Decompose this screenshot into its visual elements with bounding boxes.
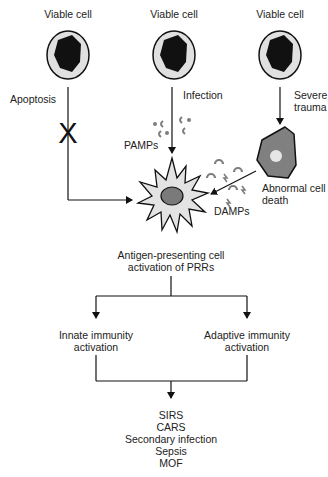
blocked-x-mark: X — [58, 117, 77, 149]
apc-label-2: activation of PRRs — [128, 261, 214, 273]
severe-trauma-label-2: trauma — [294, 101, 327, 113]
damps-molecules-icon — [207, 160, 245, 207]
diagram-canvas: X — [0, 0, 328, 477]
outcome-item: MOF — [159, 457, 182, 469]
adaptive-label-2: activation — [225, 341, 269, 353]
pamps-label: PAMPs — [124, 139, 158, 151]
viable-cell-1-label: Viable cell — [44, 8, 92, 20]
abnormal-cell-icon — [257, 127, 296, 178]
damps-arrow — [211, 171, 256, 194]
viable-cell-3-icon — [259, 31, 301, 79]
viable-cell-3-label: Viable cell — [256, 8, 304, 20]
abnormal-cell-label-1: Abnormal cell — [262, 182, 326, 194]
outcome-item: SIRS — [159, 409, 184, 421]
branch-connector — [96, 276, 247, 318]
damps-label: DAMPs — [214, 205, 250, 217]
outcome-item: Secondary infection — [125, 433, 217, 445]
outcome-item: Sepsis — [155, 445, 187, 457]
apoptosis-label: Apoptosis — [10, 93, 56, 105]
viable-cell-2-icon — [153, 31, 195, 79]
merge-connector — [96, 355, 247, 398]
adaptive-label-1: Adaptive immunity — [204, 329, 290, 341]
abnormal-cell-label-2: death — [262, 194, 288, 206]
infection-label: Infection — [183, 89, 223, 101]
innate-label-1: Innate immunity — [59, 329, 133, 341]
outcome-item: CARS — [156, 421, 185, 433]
viable-cell-1-icon — [47, 31, 89, 79]
apc-label-1: Antigen-presenting cell — [118, 249, 225, 261]
severe-trauma-label-1: Severe — [294, 89, 327, 101]
antigen-presenting-cell-icon — [138, 158, 208, 232]
viable-cell-2-label: Viable cell — [150, 8, 198, 20]
outcomes-list: SIRS CARS Secondary infection Sepsis MOF — [125, 409, 217, 469]
innate-label-2: activation — [74, 341, 118, 353]
